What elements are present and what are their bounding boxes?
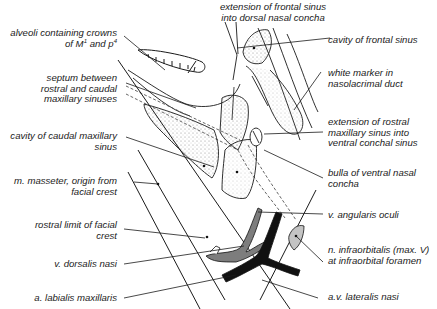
label-v-dorsalis-nasi: v. dorsalis nasi — [54, 259, 117, 270]
label-a-labialis-maxillaris: a. labialis maxillaris — [34, 293, 117, 304]
vessels — [206, 208, 304, 282]
label-n-infraorbitalis: n. infraorbitalis (max. V) at infraorbit… — [328, 245, 429, 266]
label-white-marker: white marker in nasolacrimal duct — [328, 68, 403, 89]
label-masseter: m. masseter, origin from facial crest — [14, 176, 117, 197]
label-bulla-ventral-concha: bulla of ventral nasal concha — [328, 168, 416, 189]
label-cavity-frontal-sinus: cavity of frontal sinus — [328, 35, 418, 46]
label-septum: septum between rostral and caudal maxill… — [41, 73, 117, 105]
label-rostral-limit-facial-crest: rostral limit of facial crest — [35, 220, 117, 241]
label-v-angularis-oculi: v. angularis oculi — [328, 210, 399, 221]
label-rostral-maxillary-extension: extension of rostral maxillary sinus int… — [328, 117, 418, 149]
label-caudal-maxillary-sinus: cavity of caudal maxillary sinus — [10, 131, 117, 152]
label-alveoli-crowns: alveoli containing crowns of M1 and p4 — [10, 28, 117, 49]
label-extension-frontal-sinus: extension of frontal sinus into dorsal n… — [208, 2, 338, 23]
label-av-lateralis-nasi: a.v. lateralis nasi — [328, 292, 399, 303]
alveoli-molar-crowns — [138, 50, 205, 73]
